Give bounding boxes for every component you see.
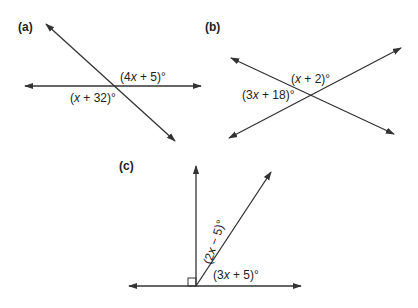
angle-label-c-2: (3x + 5)° <box>213 268 259 282</box>
angle-label-b-1: (x + 2)° <box>291 72 330 86</box>
angle-label-a-1: (4x + 5)° <box>120 70 166 84</box>
diagram-c: (c) (2x − 5)° (3x + 5)° <box>119 159 301 286</box>
part-label-c: (c) <box>119 159 134 173</box>
part-label-b: (b) <box>205 20 220 34</box>
angle-label-c-1: (2x − 5)° <box>201 218 229 266</box>
diagram-a: (a) (4x + 5)° (x + 32)° <box>18 20 201 141</box>
angle-label-b-2: (3x + 18)° <box>242 88 295 102</box>
part-label-a: (a) <box>18 20 33 34</box>
right-angle-marker <box>188 278 196 286</box>
angle-diagrams: (a) (4x + 5)° (x + 32)° (b) (x + 2)° (3x… <box>0 0 418 308</box>
angle-label-a-2: (x + 32)° <box>70 91 116 105</box>
diagram-b: (b) (x + 2)° (3x + 18)° <box>205 20 401 138</box>
